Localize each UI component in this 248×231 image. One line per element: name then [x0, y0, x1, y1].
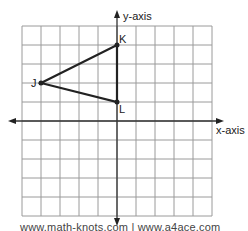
x-axis-left-arrow-icon [8, 118, 16, 124]
x-axis-label: x-axis [216, 125, 245, 136]
point-label-l: L [119, 104, 125, 115]
y-axis-label: y-axis [123, 11, 152, 22]
x-axis [8, 118, 224, 124]
footer-credit: www.math-knots.com | www.a4ace.com [20, 221, 220, 231]
point-label-k: K [119, 34, 126, 45]
point-label-j: J [31, 78, 37, 89]
point-j [39, 81, 44, 86]
y-axis-up-arrow-icon [114, 10, 120, 18]
